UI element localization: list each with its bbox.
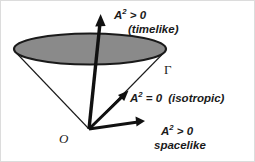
isotropic-relation: = 0 (143, 92, 163, 104)
isotropic-kind: (isotropic) (168, 92, 224, 104)
label-isotropic: A2 = 0(isotropic) (130, 91, 224, 104)
light-cone-figure: A2 > 0 (timelike) Γ A2 = 0(isotropic) A2… (0, 0, 255, 162)
label-spacelike: A2 > 0 spacelike (161, 124, 206, 152)
timelike-arrow (89, 14, 106, 129)
label-origin: O (59, 132, 68, 146)
timelike-relation: > 0 (127, 9, 147, 21)
spacelike-relation: > 0 (174, 125, 194, 137)
cone-top-ellipse (14, 34, 166, 65)
spacelike-kind: spacelike (154, 139, 206, 151)
timelike-kind: (timelike) (128, 23, 179, 35)
label-gamma: Γ (164, 63, 172, 77)
label-timelike: A2 > 0 (timelike) (114, 8, 179, 36)
